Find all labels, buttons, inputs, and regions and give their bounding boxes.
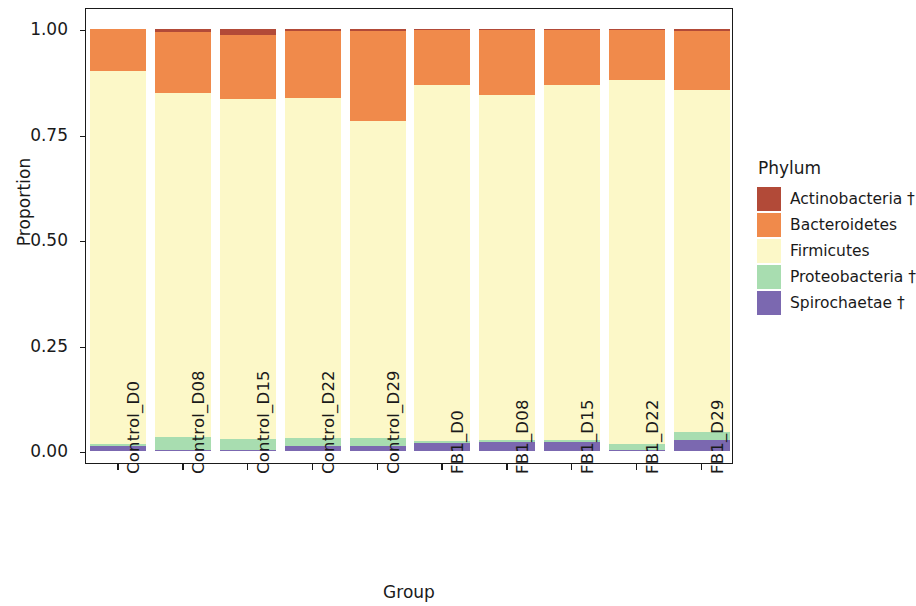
x-tick-mark [247,464,248,470]
stacked-bar [479,29,535,451]
x-tick-mark [636,464,637,470]
bar-segment [285,31,341,98]
y-tick-label: 0.50 [16,232,68,249]
x-tick-mark [571,464,572,470]
stacked-bar [544,29,600,451]
x-tick-mark [377,464,378,470]
bar-segment [544,30,600,85]
x-tick-label: Control_D22 [319,370,338,474]
legend-swatch-icon [757,187,781,211]
bar-segment [674,31,730,90]
x-tick-mark [182,464,183,470]
legend-item: Actinobacteria † [757,186,907,212]
legend-title: Phylum [758,158,907,178]
bar-segment [285,29,341,31]
bar-segment [414,85,470,442]
x-tick-mark [701,464,702,470]
bar-segment [674,29,730,31]
legend-swatch-icon [757,213,781,237]
legend-label: Actinobacteria † [790,190,915,208]
y-tick-label: 1.00 [16,21,68,38]
legend-item: Spirochaetae † [757,290,907,316]
y-tick-label: 0.75 [16,127,68,144]
bar-segment [479,29,535,30]
y-axis-title: Proportion [14,122,34,282]
legend-label: Proteobacteria † [790,268,916,286]
bar-segment [609,80,665,444]
bar-segment [155,29,211,32]
bar-segment [479,30,535,95]
bar-segment [674,90,730,432]
x-tick-label: FB1_D22 [643,399,662,474]
bar-segment [220,29,276,35]
bar-segment [90,29,146,71]
bar-segment [350,29,406,31]
legend-swatch-icon [757,291,781,315]
bar-segment [609,29,665,80]
x-tick-label: FB1_D15 [578,399,597,474]
bar-segment [155,32,211,93]
y-tick-label: 0.00 [16,443,68,460]
legend-label: Bacteroidetes [790,216,897,234]
x-tick-mark [506,464,507,470]
x-tick-mark [441,464,442,470]
legend-item: Firmicutes [757,238,907,264]
legend-label: Firmicutes [790,242,870,260]
legend-swatch-icon [757,239,781,263]
legend-items: Actinobacteria †BacteroidetesFirmicutesP… [757,186,907,316]
stacked-bar [414,29,470,451]
bar-segment [479,95,535,440]
x-tick-label: Control_D08 [189,370,208,474]
stacked-bar [609,29,665,451]
x-tick-label: FB1_D29 [708,399,727,474]
bar-segment [350,31,406,121]
legend-swatch-icon [757,265,781,289]
stacked-bar [674,29,730,451]
bar-segment [414,29,470,84]
x-tick-label: Control_D0 [124,381,143,474]
y-tick-label: 0.25 [16,338,68,355]
x-axis-title: Group [85,582,733,602]
legend-item: Bacteroidetes [757,212,907,238]
x-tick-mark [312,464,313,470]
legend-label: Spirochaetae † [790,294,905,312]
x-tick-label: FB1_D0 [448,410,467,474]
x-tick-label: Control_D15 [254,370,273,474]
x-tick-label: FB1_D08 [513,399,532,474]
bar-segment [544,29,600,30]
bar-segment [220,35,276,99]
legend-item: Proteobacteria † [757,264,907,290]
bar-segment [544,85,600,439]
plot-panel [85,8,733,464]
x-tick-label: Control_D29 [384,370,403,474]
x-tick-mark [117,464,118,470]
legend: Phylum Actinobacteria †BacteroidetesFirm… [757,158,907,316]
